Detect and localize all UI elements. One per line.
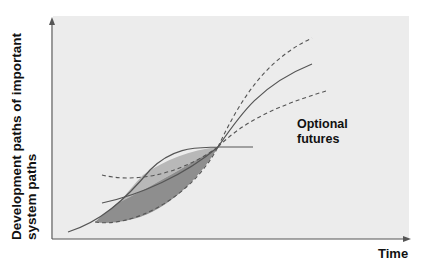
optional-futures-annotation: Optional futures — [297, 117, 348, 147]
annotation-line1: Optional — [297, 117, 348, 132]
annotation-line2: futures — [297, 132, 348, 147]
y-axis-label: Development paths of important system pa… — [9, 33, 39, 240]
x-axis-label: Time — [378, 246, 408, 261]
optional-futures-diagram: Development paths of important system pa… — [0, 0, 430, 271]
background-panel — [53, 16, 409, 239]
y-axis-label-line2: system paths — [24, 33, 39, 240]
y-axis-label-line1: Development paths of important — [9, 33, 24, 240]
diagram-canvas — [0, 0, 430, 271]
